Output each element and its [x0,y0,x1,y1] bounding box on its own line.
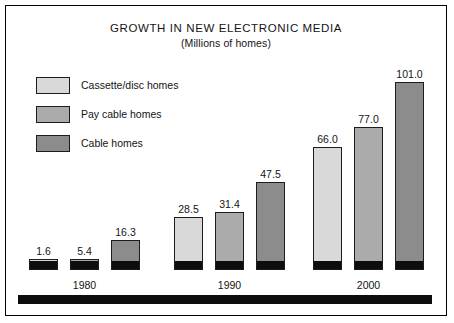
bar-base-block [30,261,57,269]
bar-base-block [112,261,139,269]
bar-fill [216,213,243,261]
bar: 77.0 [354,127,383,270]
bar-base-block [216,261,243,269]
x-axis-group-label: 2000 [313,279,424,291]
bar-base-block [175,261,202,269]
bar-fill [112,241,139,261]
bar-value-label: 66.0 [317,133,337,145]
bar-value-label: 31.4 [219,198,239,210]
plot-area: 1.65.416.3198028.531.447.5199066.077.010… [6,6,448,317]
bar-value-label: 101.0 [396,68,422,80]
bar-base-block [396,261,423,269]
bar: 5.4 [70,259,99,270]
bar-value-label: 47.5 [260,168,280,180]
bar-base-block [355,261,382,269]
x-axis-group-label: 1980 [29,279,140,291]
bar-value-label: 5.4 [77,245,92,257]
bar-fill [355,128,382,261]
bar-value-label: 77.0 [358,113,378,125]
bar: 47.5 [256,182,285,270]
chart-frame: GROWTH IN NEW ELECTRONIC MEDIA (Millions… [5,5,447,316]
bar-value-label: 16.3 [115,226,135,238]
x-axis-group-label: 1990 [174,279,285,291]
baseline-rule [18,295,432,304]
bar-value-label: 28.5 [178,203,198,215]
bar: 31.4 [215,212,244,270]
bar: 16.3 [111,240,140,270]
bar-fill [396,83,423,261]
bar-base-block [314,261,341,269]
bar-fill [175,218,202,261]
bar: 66.0 [313,147,342,270]
bar-fill [314,148,341,261]
bar: 101.0 [395,82,424,270]
bar-base-block [71,261,98,269]
bar-value-label: 1.6 [36,245,51,257]
bar-fill [257,183,284,261]
bar: 28.5 [174,217,203,270]
bar-base-block [257,261,284,269]
bar: 1.6 [29,259,58,270]
